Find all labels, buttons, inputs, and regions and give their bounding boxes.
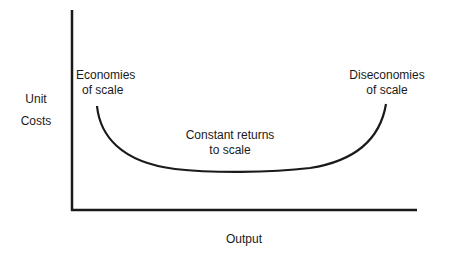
x-axis-label: Output (194, 232, 294, 247)
constant-returns-line-2: to scale (170, 143, 290, 158)
y-axis-label-line-1: Unit (14, 88, 58, 110)
diseconomies-label-line-1: Diseconomies (345, 68, 429, 83)
diseconomies-label-line-2: of scale (345, 83, 429, 98)
diseconomies-of-scale-label: Diseconomies of scale (345, 68, 429, 98)
y-axis-label-line-2: Costs (14, 110, 58, 132)
constant-returns-label: Constant returns to scale (170, 128, 290, 158)
y-axis-label: Unit Costs (14, 88, 58, 132)
economies-label-line-2: of scale (74, 83, 144, 98)
economies-label-line-1: Economies (74, 68, 144, 83)
economies-of-scale-label: Economies of scale (74, 68, 144, 98)
constant-returns-line-1: Constant returns (170, 128, 290, 143)
